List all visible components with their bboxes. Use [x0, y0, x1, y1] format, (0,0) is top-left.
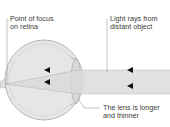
lens-label-line2: and thinner [103, 112, 139, 120]
eye-focus-diagram: Point of focus on retina Light rays from… [0, 0, 170, 127]
light-rays-label-line2: distant object [110, 23, 152, 31]
point-of-focus-label-line2: on retina [10, 23, 38, 31]
leader-lens [78, 98, 100, 108]
